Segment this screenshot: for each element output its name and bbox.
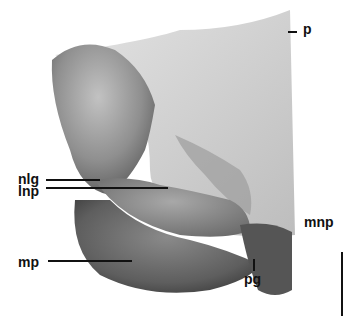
- label-pg: pg: [244, 272, 261, 286]
- label-lnp: lnp: [18, 184, 39, 198]
- scale-bar: [341, 252, 343, 316]
- anatomical-figure: p nlg lnp mp mnp pg: [0, 0, 349, 326]
- label-p: p: [303, 22, 312, 36]
- illustration-drawing: [0, 0, 349, 326]
- label-mnp: mnp: [304, 215, 334, 229]
- leader-line-mp: [48, 260, 132, 262]
- label-mp: mp: [18, 255, 39, 269]
- leader-line-lnp: [46, 187, 168, 189]
- leader-line-p: [288, 31, 297, 33]
- leader-line-pg: [253, 259, 255, 271]
- leader-line-nlg: [46, 179, 100, 181]
